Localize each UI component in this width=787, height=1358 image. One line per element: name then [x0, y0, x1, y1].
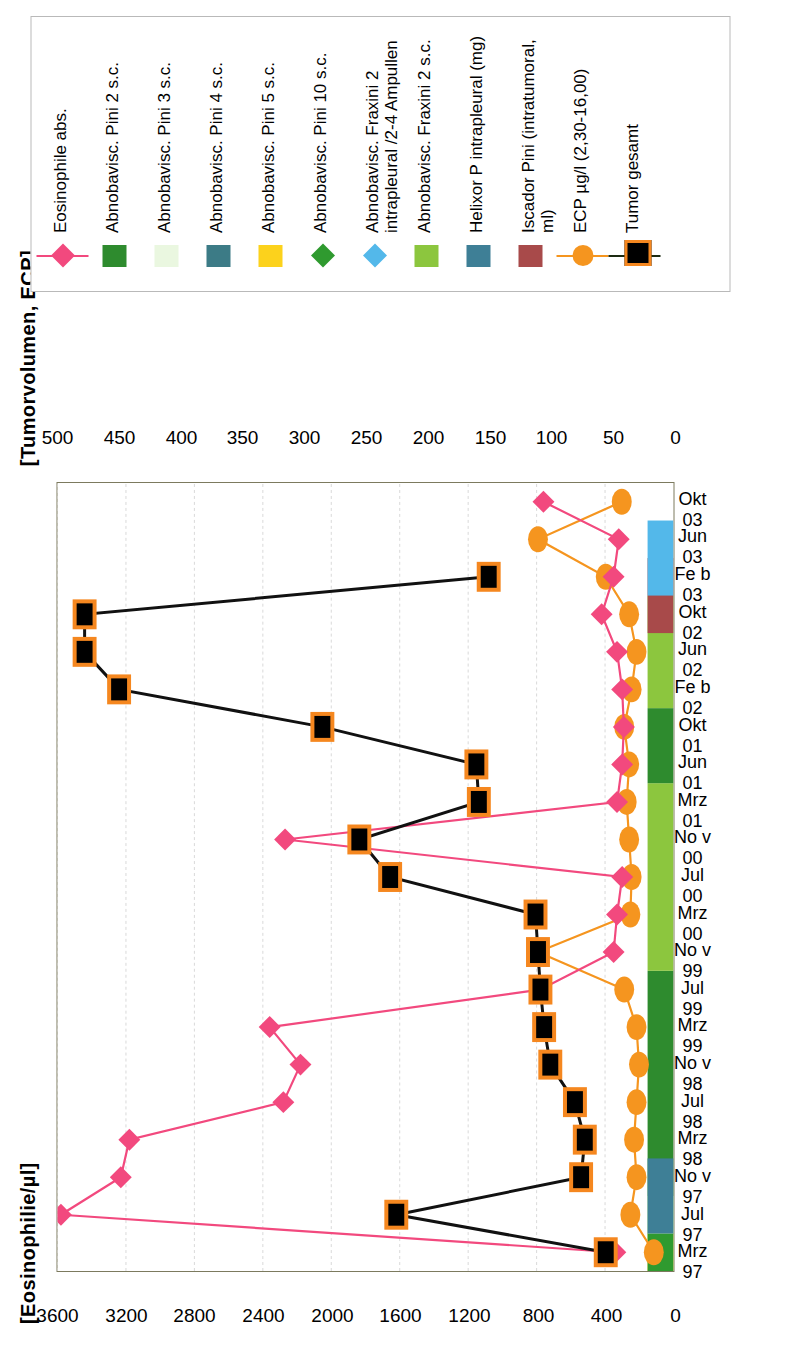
category-axis: Mrz 97Jul 97No v 97Mrz 98Jul 98No v 98Mr… — [678, 482, 748, 1272]
secondary-tick-label: 300 — [270, 427, 338, 449]
legend-eosinophile-abs[interactable]: Eosinophile abs. — [45, 27, 97, 279]
legend-abnoba-pini-3-sc[interactable]: Abnobavisc. Pini 3 s.c. — [149, 27, 201, 279]
data-point-marker — [109, 1166, 131, 1188]
category-label: No v 97 — [669, 1166, 715, 1208]
data-series-layer — [57, 483, 673, 1271]
primary-tick-label: 3600 — [23, 1305, 91, 1327]
legend-color-swatch — [414, 245, 438, 267]
legend-ecp[interactable]: ECP µg/l (2,30-16,00) — [565, 27, 617, 279]
data-point-marker — [274, 829, 296, 851]
legend-color-swatch — [466, 245, 490, 267]
data-point-marker — [534, 1014, 554, 1040]
data-point-marker — [57, 1204, 71, 1226]
secondary-tick-label: 500 — [23, 427, 91, 449]
legend-diamond-marker — [310, 244, 334, 268]
legend-key-icon — [409, 233, 443, 279]
legend-key-icon — [565, 233, 599, 279]
legend-key-icon — [305, 233, 339, 279]
legend-helixor-p-intrapleural[interactable]: Helixor P intrapleural (mg) — [461, 27, 513, 279]
legend-key-icon — [149, 233, 183, 279]
primary-axis-title: [Eosinophilie/µl] — [16, 1162, 39, 1324]
secondary-tick-label: 400 — [147, 427, 215, 449]
data-point-marker — [478, 564, 498, 590]
secondary-tick-label: 50 — [579, 427, 647, 449]
data-point-marker — [466, 751, 486, 777]
data-point-marker — [574, 1127, 594, 1153]
legend-diamond-marker — [362, 244, 386, 268]
legend-abnoba-pini-4-sc[interactable]: Abnobavisc. Pini 4 s.c. — [201, 27, 253, 279]
category-label: Jul 98 — [669, 1091, 715, 1133]
data-point-marker — [74, 601, 94, 627]
data-point-marker — [564, 1089, 584, 1115]
data-point-marker — [619, 827, 639, 853]
legend-label: Eosinophile abs. — [45, 108, 69, 233]
category-label: Jul 99 — [669, 978, 715, 1020]
data-point-marker — [74, 639, 94, 665]
data-point-marker — [386, 1202, 406, 1228]
legend-label: Abnobavisc. Fraxini 2 intrapleural /2-4 … — [357, 40, 400, 233]
legend-label: Tumor gesamt — [617, 124, 641, 233]
primary-tick-label: 0 — [641, 1305, 709, 1327]
data-point-marker — [626, 1164, 646, 1190]
legend-tumor-marker — [624, 240, 651, 266]
legend-color-swatch — [154, 245, 178, 267]
primary-tick-label: 1600 — [366, 1305, 434, 1327]
legend-key-icon — [253, 233, 287, 279]
data-point-marker — [611, 489, 631, 515]
category-label: Fe b 03 — [669, 564, 715, 606]
legend-abnoba-pini-2-sc[interactable]: Abnobavisc. Pini 2 s.c. — [97, 27, 149, 279]
category-label: Jun 01 — [669, 752, 715, 794]
legend-abnoba-fraxini-2-sc[interactable]: Abnobavisc. Fraxini 2 s.c. — [409, 27, 461, 279]
category-label: Mrz 98 — [669, 1128, 715, 1170]
category-label: No v 98 — [669, 1053, 715, 1095]
legend-circle-marker — [572, 246, 593, 267]
category-label: Mrz 00 — [669, 903, 715, 945]
secondary-tick-label: 0 — [641, 427, 709, 449]
legend-label: Abnobavisc. Pini 2 s.c. — [97, 62, 121, 233]
primary-tick-label: 3200 — [92, 1305, 160, 1327]
legend-key-icon — [617, 233, 651, 279]
data-point-marker — [624, 1127, 644, 1153]
category-label: Jul 97 — [669, 1204, 715, 1246]
data-point-marker — [607, 528, 629, 550]
data-point-marker — [468, 789, 488, 815]
category-label: Okt 01 — [669, 715, 715, 757]
data-point-marker — [528, 939, 548, 965]
category-label: Jun 03 — [669, 526, 715, 568]
data-point-marker — [530, 977, 550, 1003]
data-point-marker — [626, 1089, 646, 1115]
data-point-marker — [614, 977, 634, 1003]
data-point-marker — [602, 941, 624, 963]
legend-key-icon — [513, 233, 547, 279]
data-point-marker — [590, 603, 612, 625]
legend-label: ECP µg/l (2,30-16,00) — [565, 69, 589, 233]
data-point-marker — [619, 601, 639, 627]
rotated-figure-canvas: [Eosinophilie/µl] [Tumorvolumen, ECP] 04… — [0, 0, 787, 1358]
legend-abnoba-pini-10-sc[interactable]: Abnobavisc. Pini 10 s.c. — [305, 27, 357, 279]
legend-key-icon — [45, 233, 79, 279]
data-point-marker — [289, 1054, 311, 1076]
legend-color-swatch — [102, 245, 126, 267]
primary-tick-label: 2800 — [160, 1305, 228, 1327]
legend-abnoba-fraxini-2-intrapleural[interactable]: Abnobavisc. Fraxini 2 intrapleural /2-4 … — [357, 27, 409, 279]
data-point-marker — [540, 1052, 560, 1078]
data-point-marker — [606, 641, 628, 663]
secondary-tick-label: 200 — [394, 427, 462, 449]
category-label: Mrz 01 — [669, 790, 715, 832]
legend-label: Abnobavisc. Pini 3 s.c. — [149, 62, 173, 233]
legend-color-swatch — [258, 245, 282, 267]
primary-tick-label: 800 — [504, 1305, 572, 1327]
secondary-tick-label: 100 — [517, 427, 585, 449]
legend: Eosinophile abs.Abnobavisc. Pini 2 s.c.A… — [30, 16, 730, 292]
legend-tumor-gesamt[interactable]: Tumor gesamt — [617, 27, 669, 279]
legend-diamond-marker — [50, 244, 74, 268]
data-point-marker — [620, 1202, 640, 1228]
legend-label: Iscador Pini (intratumoral, ml) — [513, 39, 556, 233]
data-point-marker — [528, 526, 548, 552]
legend-iscador-pini-intratumoral[interactable]: Iscador Pini (intratumoral, ml) — [513, 27, 565, 279]
data-point-marker — [349, 827, 369, 853]
series-line — [60, 502, 623, 1252]
data-point-marker — [629, 1052, 649, 1078]
legend-abnoba-pini-5-sc[interactable]: Abnobavisc. Pini 5 s.c. — [253, 27, 305, 279]
data-point-marker — [525, 902, 545, 928]
